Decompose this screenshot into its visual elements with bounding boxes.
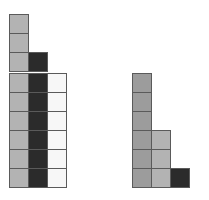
- unit-block-mid: [132, 168, 152, 188]
- unit-block-mid: [132, 92, 152, 112]
- unit-block-mid: [132, 111, 152, 131]
- unit-block-white: [47, 73, 67, 93]
- unit-block-dark: [28, 92, 48, 112]
- unit-block-white: [47, 111, 67, 131]
- unit-block-light: [9, 92, 29, 112]
- unit-block-light: [9, 149, 29, 169]
- unit-block-light: [9, 73, 29, 93]
- unit-block-white: [47, 168, 67, 188]
- unit-block-mid: [132, 73, 152, 93]
- unit-block-light: [151, 130, 171, 150]
- unit-block-mid: [132, 130, 152, 150]
- unit-block-dark: [28, 52, 48, 72]
- unit-block-white: [47, 130, 67, 150]
- unit-block-dark: [28, 73, 48, 93]
- unit-block-dark: [170, 168, 190, 188]
- unit-block-light: [9, 111, 29, 131]
- unit-block-light: [9, 14, 29, 34]
- unit-block-white: [47, 92, 67, 112]
- unit-block-mid: [132, 149, 152, 169]
- unit-block-light: [9, 33, 29, 53]
- unit-block-light: [151, 149, 171, 169]
- unit-block-white: [47, 149, 67, 169]
- unit-block-dark: [28, 130, 48, 150]
- unit-block-light: [9, 52, 29, 72]
- unit-block-dark: [28, 111, 48, 131]
- unit-block-light: [9, 130, 29, 150]
- unit-block-dark: [28, 168, 48, 188]
- unit-block-light: [151, 168, 171, 188]
- unit-block-light: [9, 168, 29, 188]
- unit-block-dark: [28, 149, 48, 169]
